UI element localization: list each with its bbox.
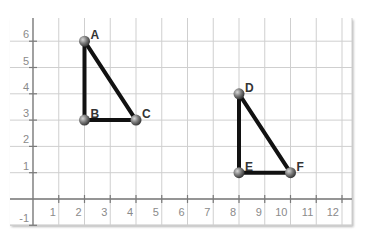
x-tick-label: 5 (153, 206, 159, 218)
x-tick-label: 8 (230, 206, 236, 218)
vertex-point-icon (79, 115, 90, 126)
y-tick-label: 5 (23, 55, 29, 67)
vertex-point-icon (234, 88, 245, 99)
vertex-label: D (245, 81, 254, 95)
vertex-label: A (91, 28, 100, 42)
vertex-point-icon (285, 167, 296, 178)
y-tick-label: -1 (19, 212, 29, 224)
x-tick-label: 7 (204, 206, 210, 218)
y-tick-label: 2 (23, 133, 29, 145)
plot-background (10, 18, 352, 225)
vertex-point-icon (234, 167, 245, 178)
x-tick-label: 6 (178, 206, 184, 218)
vertex-label: E (245, 160, 253, 174)
x-tick-label: 11 (302, 206, 313, 218)
coordinate-plane: 123456789101112-1123456 ABCDEF (0, 0, 367, 238)
vertex-label: C (142, 107, 151, 121)
y-tick-label: 6 (23, 28, 29, 40)
x-tick-label: 10 (275, 206, 287, 218)
vertex-label: B (91, 107, 100, 121)
x-tick-label: 4 (127, 206, 133, 218)
x-tick-label: 3 (101, 206, 107, 218)
plot-svg: 123456789101112-1123456 ABCDEF (0, 0, 367, 238)
y-tick-label: 3 (23, 107, 29, 119)
x-tick-label: 1 (50, 206, 56, 218)
vertex-point-icon (79, 36, 90, 47)
x-tick-label: 12 (327, 206, 339, 218)
y-tick-label: 1 (23, 160, 29, 172)
x-tick-label: 9 (256, 206, 262, 218)
y-tick-label: 4 (23, 81, 29, 93)
vertex-label: F (297, 160, 304, 174)
x-tick-label: 2 (75, 206, 81, 218)
vertex-point-icon (131, 115, 142, 126)
